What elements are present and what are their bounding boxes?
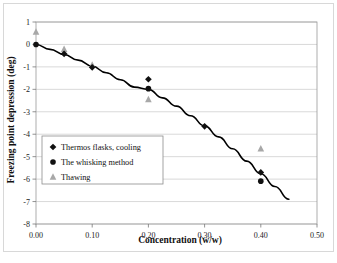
freezing-point-depression-chart: 0.000.100.200.300.400.50 10-1-2-3-4-5-6-… bbox=[0, 0, 337, 263]
y-axis-title: Freezing point depression (deg) bbox=[6, 56, 17, 183]
legend-label: Thermos flasks, cooling bbox=[61, 143, 141, 152]
data-point-marker bbox=[146, 86, 152, 92]
x-axis-title: Concentration (w/w) bbox=[138, 235, 222, 246]
chart-figure: 0.000.100.200.300.400.50 10-1-2-3-4-5-6-… bbox=[0, 0, 337, 263]
y-axis-tick-labels: 10-1-2-3-4-5-6-7-8 bbox=[23, 18, 30, 229]
x-axis-tick-marks bbox=[36, 224, 317, 228]
y-tick-label: 0 bbox=[26, 40, 30, 49]
gridlines bbox=[36, 22, 317, 224]
data-point-marker bbox=[145, 76, 152, 83]
data-point-marker bbox=[257, 145, 264, 152]
y-tick-label: -2 bbox=[23, 85, 30, 94]
chart-legend: Thermos flasks, coolingThe whisking meth… bbox=[42, 136, 163, 184]
data-point-marker bbox=[89, 64, 96, 71]
y-axis-tick-marks bbox=[33, 22, 37, 224]
data-point-marker bbox=[145, 96, 152, 103]
x-tick-label: 0.10 bbox=[85, 231, 99, 240]
legend-label: Thawing bbox=[61, 173, 91, 182]
y-tick-label: 1 bbox=[26, 18, 30, 27]
y-tick-label: -6 bbox=[23, 175, 30, 184]
data-point-marker bbox=[201, 123, 208, 130]
y-tick-label: -1 bbox=[23, 63, 30, 72]
y-tick-label: -5 bbox=[23, 153, 30, 162]
data-point-marker bbox=[33, 28, 40, 35]
y-tick-label: -8 bbox=[23, 220, 30, 229]
y-tick-label: -7 bbox=[23, 198, 30, 207]
x-tick-label: 0.50 bbox=[310, 231, 324, 240]
data-point-marker bbox=[258, 178, 264, 184]
y-tick-label: -3 bbox=[23, 108, 30, 117]
y-tick-label: -4 bbox=[23, 130, 30, 139]
x-tick-label: 0.40 bbox=[254, 231, 268, 240]
x-tick-label: 0.00 bbox=[29, 231, 43, 240]
legend-marker-circle bbox=[50, 159, 56, 165]
legend-label: The whisking method bbox=[61, 158, 134, 167]
plot-area-border bbox=[36, 22, 317, 224]
data-point-marker bbox=[33, 42, 39, 48]
